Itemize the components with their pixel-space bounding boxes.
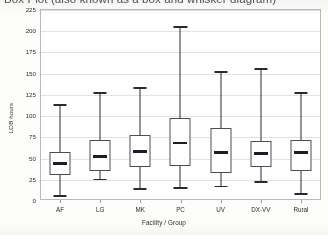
lower-whisker — [140, 167, 141, 188]
lower-whisker-cap — [214, 186, 227, 188]
lower-whisker — [180, 166, 181, 187]
upper-whisker-cap — [134, 87, 147, 89]
lower-whisker — [60, 175, 61, 195]
lower-whisker — [100, 171, 101, 179]
x-tick — [100, 200, 101, 203]
median-line — [53, 162, 67, 165]
box-plot-group — [40, 9, 80, 200]
box-plot-group — [120, 9, 160, 200]
upper-whisker-cap — [214, 71, 227, 73]
upper-whisker-cap — [174, 26, 187, 28]
y-tick-label: 0 — [14, 197, 36, 204]
y-tick-label: 150 — [14, 69, 36, 76]
upper-whisker — [220, 71, 221, 128]
median-line — [173, 142, 187, 145]
box-plot-group — [281, 9, 321, 200]
y-tick-label: 25 — [14, 175, 36, 182]
lower-whisker-cap — [174, 187, 187, 189]
lower-whisker — [220, 173, 221, 186]
lower-whisker-cap — [294, 193, 307, 195]
median-line — [294, 151, 308, 154]
y-tick-label: 200 — [14, 27, 36, 34]
median-line — [133, 150, 147, 153]
upper-whisker-cap — [294, 92, 307, 94]
iqr-box — [290, 140, 311, 171]
y-axis-title: LOB hours — [8, 83, 14, 153]
upper-whisker-cap — [254, 68, 267, 70]
x-tick — [261, 200, 262, 203]
y-tick-label: 225 — [14, 6, 36, 13]
y-tick-label: 175 — [14, 48, 36, 55]
lower-whisker-cap — [254, 181, 267, 183]
lower-whisker — [260, 167, 261, 181]
box-plot-figure: Box Plot (also known as a box and whiske… — [0, 0, 328, 235]
median-line — [254, 152, 268, 155]
y-tick-label: 50 — [14, 154, 36, 161]
upper-whisker — [140, 87, 141, 135]
lower-whisker-cap — [94, 179, 107, 181]
median-line — [214, 151, 228, 154]
x-tick — [221, 200, 222, 203]
x-tick — [140, 200, 141, 203]
box-plot-group — [80, 9, 120, 200]
median-line — [93, 155, 107, 158]
x-tick-label: Rural — [276, 206, 326, 213]
upper-whisker — [180, 26, 181, 118]
box-plot-group — [160, 9, 200, 200]
y-tick-label: 100 — [14, 112, 36, 119]
x-tick — [60, 200, 61, 203]
upper-whisker — [100, 92, 101, 140]
box-plot-group — [201, 9, 241, 200]
lower-whisker-cap — [54, 195, 67, 197]
x-tick — [181, 200, 182, 203]
upper-whisker — [260, 68, 261, 140]
y-tick-label: 75 — [14, 133, 36, 140]
upper-whisker — [300, 92, 301, 140]
upper-whisker-cap — [54, 104, 67, 106]
upper-whisker — [60, 104, 61, 152]
upper-whisker-cap — [94, 92, 107, 94]
box-plot-group — [241, 9, 281, 200]
x-tick — [301, 200, 302, 203]
y-tick-label: 125 — [14, 90, 36, 97]
x-axis-title: Facility / Group — [0, 219, 328, 226]
lower-whisker-cap — [134, 188, 147, 190]
lower-whisker — [300, 171, 301, 193]
